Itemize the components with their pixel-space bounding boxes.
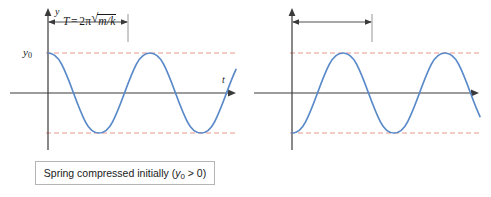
- y0-label: y0: [23, 46, 32, 60]
- plot-area-stretched: [246, 0, 491, 155]
- y-axis-label: y: [55, 6, 59, 17]
- period-arrow-left-head: [292, 19, 299, 25]
- radical-sign-icon: √: [91, 12, 98, 24]
- y-axis-arrowhead: [289, 8, 296, 16]
- y-axis-arrowhead: [45, 8, 52, 16]
- t-axis-arrowhead: [228, 90, 236, 97]
- caption-relation: > 0): [185, 167, 206, 179]
- period-arrow-left-head: [48, 19, 55, 25]
- t-axis-label: t: [222, 74, 225, 85]
- formula-lhs: T: [63, 15, 70, 27]
- formula-radicand: m/k: [97, 14, 116, 27]
- panel-spring-stretched: y t y0 T=2π√m/k Spring stretched initial…: [246, 0, 491, 197]
- y0-label-subscript: 0: [28, 51, 32, 60]
- panel-spring-compressed: y t y0 T=2π√m/k Spring compressed initia…: [0, 0, 245, 197]
- plot-area-compressed: [0, 0, 245, 155]
- period-arrow-right-head: [121, 19, 128, 25]
- formula-equals: =: [70, 15, 80, 27]
- period-formula: T=2π√m/k: [63, 13, 116, 27]
- period-arrow-right-head: [365, 19, 372, 25]
- caption-prefix: Spring compressed initially (: [44, 167, 175, 179]
- figure-root: y t y0 T=2π√m/k Spring compressed initia…: [0, 0, 491, 197]
- formula-coefficient: 2π: [79, 15, 91, 27]
- caption-compressed: Spring compressed initially (y0 > 0): [35, 161, 215, 185]
- formula-radical-group: √m/k: [91, 13, 116, 27]
